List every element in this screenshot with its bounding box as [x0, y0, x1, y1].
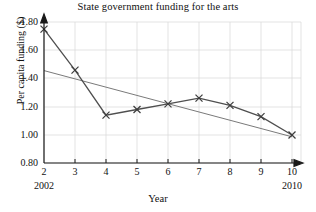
grid-horizontal: [44, 22, 301, 163]
axis-lines: [41, 14, 303, 166]
plot-area: [0, 0, 316, 212]
y-axis-arrow: [41, 14, 48, 23]
chart-container: State government funding for the arts Pe…: [0, 0, 316, 212]
x-axis-arrow: [294, 160, 303, 167]
grid-vertical: [44, 22, 301, 163]
